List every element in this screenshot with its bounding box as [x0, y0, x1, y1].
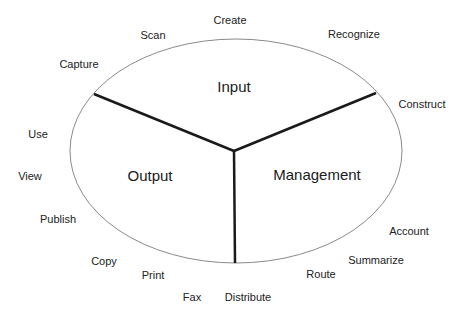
section-management: Management	[273, 167, 361, 182]
activity-use: Use	[28, 129, 48, 140]
activity-route: Route	[306, 269, 335, 280]
activity-print: Print	[142, 270, 165, 281]
divider-input-output	[94, 94, 234, 151]
activity-recognize: Recognize	[328, 29, 380, 40]
activity-construct: Construct	[398, 99, 445, 110]
activity-view: View	[18, 171, 42, 182]
divider-input-management	[234, 93, 376, 151]
document-lifecycle-diagram	[0, 0, 462, 317]
activity-fax: Fax	[183, 292, 201, 303]
activity-account: Account	[389, 226, 429, 237]
divider-output-management	[234, 151, 235, 263]
activity-capture: Capture	[59, 59, 98, 70]
activity-scan: Scan	[140, 30, 165, 41]
section-output: Output	[127, 168, 172, 183]
section-input: Input	[217, 79, 250, 94]
activity-distribute: Distribute	[225, 292, 271, 303]
activity-copy: Copy	[91, 256, 117, 267]
activity-publish: Publish	[40, 214, 76, 225]
activity-create: Create	[213, 15, 246, 26]
activity-summarize: Summarize	[348, 255, 404, 266]
